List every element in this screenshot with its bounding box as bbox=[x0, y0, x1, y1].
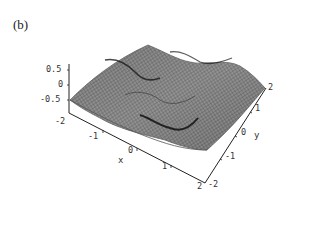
z-tick: 0 bbox=[58, 79, 63, 89]
y-tick: -1 bbox=[225, 151, 235, 161]
x-tick: -2 bbox=[55, 116, 65, 126]
y-axis-label: y bbox=[254, 130, 259, 140]
y-tick: 1 bbox=[255, 103, 260, 113]
x-tick: 1 bbox=[162, 161, 167, 171]
x-tick: 0 bbox=[128, 145, 133, 155]
z-tick: 0.5 bbox=[46, 64, 61, 74]
x-tick: 2 bbox=[197, 181, 202, 191]
y-tick: 0 bbox=[241, 127, 246, 137]
y-tick: 2 bbox=[268, 82, 273, 92]
z-tick: -0.5 bbox=[40, 94, 60, 104]
x-tick: -1 bbox=[88, 131, 98, 141]
x-axis-label: x bbox=[118, 155, 123, 165]
y-tick: -2 bbox=[208, 179, 218, 189]
